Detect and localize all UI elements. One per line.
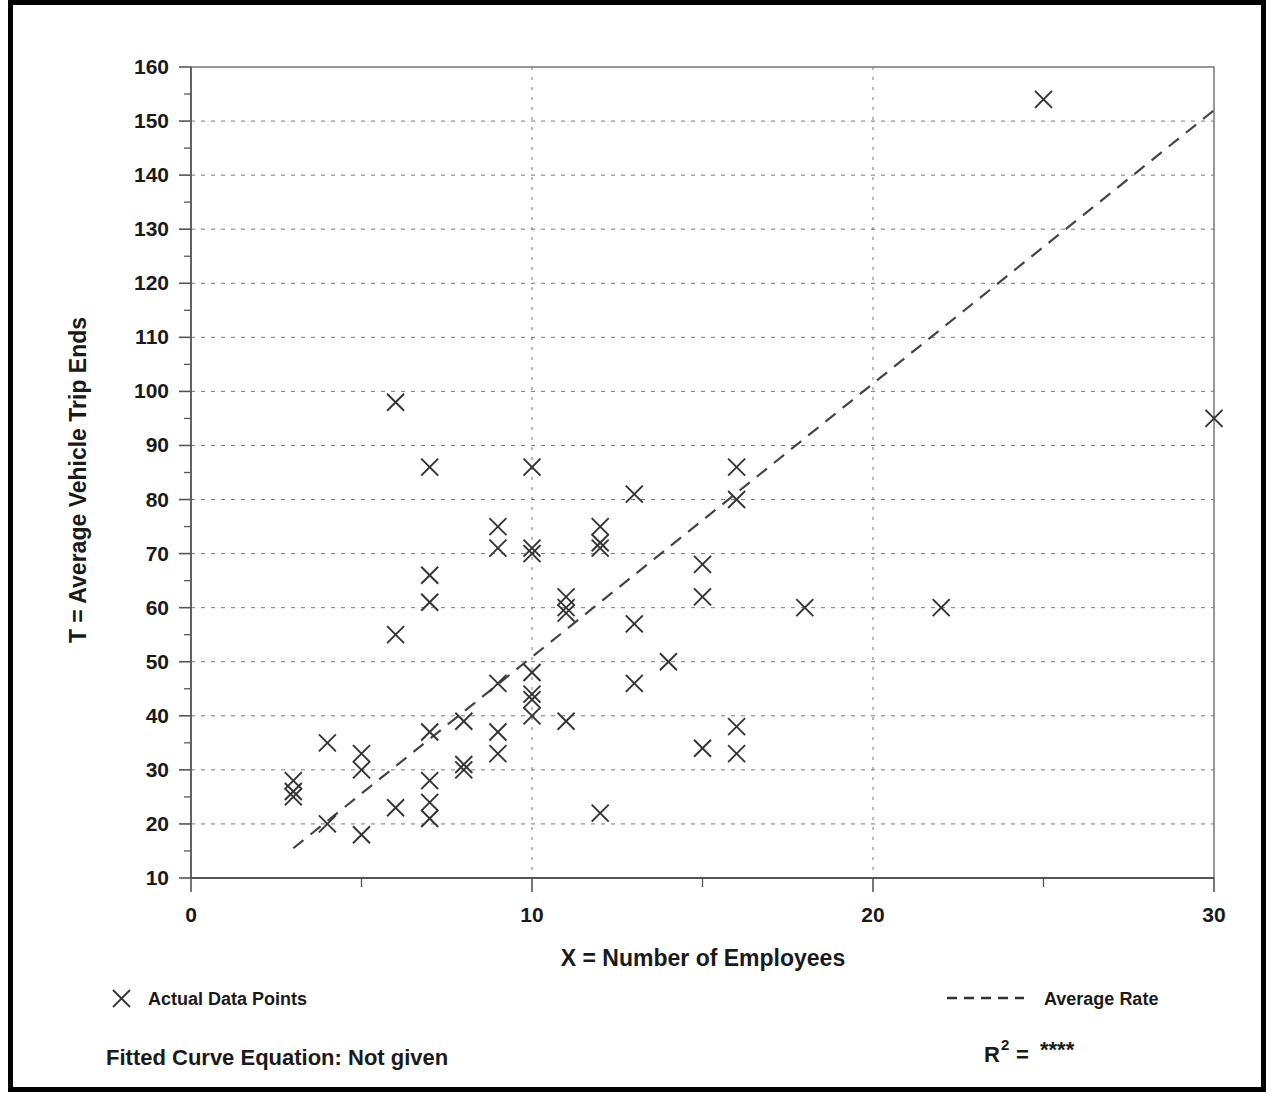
y-tick-label: 80 bbox=[146, 488, 169, 511]
x-tick-label: 10 bbox=[520, 903, 543, 926]
r-squared-equals: = bbox=[1016, 1042, 1029, 1067]
r-squared-prefix: R bbox=[984, 1042, 1000, 1067]
y-tick-label: 60 bbox=[146, 596, 169, 619]
gridlines bbox=[191, 67, 1214, 878]
y-tick-label: 120 bbox=[134, 271, 169, 294]
y-tick-label: 90 bbox=[146, 433, 169, 456]
legend-label-average-rate: Average Rate bbox=[1044, 989, 1158, 1009]
r-squared-statement: R 2 = **** bbox=[984, 1036, 1075, 1067]
x-tick-label: 20 bbox=[861, 903, 884, 926]
r-squared-value: **** bbox=[1040, 1037, 1075, 1062]
y-tick-label: 10 bbox=[146, 866, 169, 889]
legend-label-actual-data-points: Actual Data Points bbox=[148, 989, 307, 1009]
y-tick-label: 50 bbox=[146, 650, 169, 673]
x-tick-label: 30 bbox=[1202, 903, 1225, 926]
y-tick-label: 30 bbox=[146, 758, 169, 781]
y-tick-label: 20 bbox=[146, 812, 169, 835]
legend-entry-average-rate[interactable]: Average Rate bbox=[947, 989, 1158, 1009]
legend-entry-actual-data-points[interactable]: Actual Data Points bbox=[113, 989, 307, 1009]
r-squared-exponent: 2 bbox=[1001, 1036, 1009, 1053]
y-tick-label: 110 bbox=[135, 325, 169, 348]
y-tick-label: 140 bbox=[134, 163, 169, 186]
x-marker-icon bbox=[113, 990, 130, 1007]
scatter-chart: 1020304050607080901001101201301401501600… bbox=[0, 0, 1276, 1101]
y-tick-label: 160 bbox=[134, 55, 169, 78]
y-tick-label: 40 bbox=[146, 704, 169, 727]
y-tick-label: 150 bbox=[134, 109, 169, 132]
x-axis-title: X = Number of Employees bbox=[561, 945, 845, 971]
chart-page: 1020304050607080901001101201301401501600… bbox=[0, 0, 1276, 1101]
y-tick-label: 70 bbox=[146, 542, 169, 565]
x-tick-label: 0 bbox=[185, 903, 197, 926]
y-axis-title: T = Average Vehicle Trip Ends bbox=[65, 317, 91, 643]
fitted-curve-equation-label: Fitted Curve Equation: Not given bbox=[106, 1045, 448, 1070]
y-tick-label: 130 bbox=[134, 217, 169, 240]
y-tick-label: 100 bbox=[134, 379, 169, 402]
